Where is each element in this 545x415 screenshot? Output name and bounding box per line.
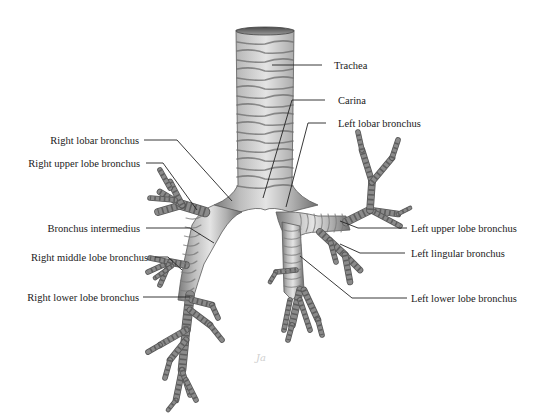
bronchus-segment — [370, 182, 372, 210]
trachea-structure — [214, 27, 318, 212]
airway-anatomy — [148, 27, 410, 410]
bronchial-tree-diagram: Trachea Carina Left lobar bronchus Right… — [0, 0, 545, 415]
main-bronchi — [178, 205, 350, 302]
bronchus-segment — [150, 198, 175, 200]
label-carina: Carina — [338, 95, 366, 106]
label-right-lower-lobe-bronchus: Right lower lobe bronchus — [27, 292, 139, 303]
label-left-lower-lobe-bronchus: Left lower lobe bronchus — [411, 293, 517, 304]
label-left-upper-lobe-bronchus: Left upper lobe bronchus — [411, 223, 517, 234]
label-left-lingular-bronchus: Left lingular bronchus — [411, 248, 505, 259]
label-right-lobar-bronchus: Right lobar bronchus — [50, 135, 139, 146]
label-bronchus-intermedius: Bronchus intermedius — [48, 223, 140, 234]
bronchus-segment — [190, 310, 210, 325]
label-right-middle-lobe-bronchus: Right middle lobe bronchus — [31, 252, 148, 263]
artist-signature: Ja — [254, 352, 266, 363]
leader-left-lingular — [340, 244, 405, 253]
label-left-lobar-bronchus: Left lobar bronchus — [338, 118, 421, 129]
bronchus-segment-rings — [182, 330, 186, 370]
label-trachea: Trachea — [334, 60, 368, 71]
label-right-upper-lobe-bronchus: Right upper lobe bronchus — [28, 158, 140, 169]
